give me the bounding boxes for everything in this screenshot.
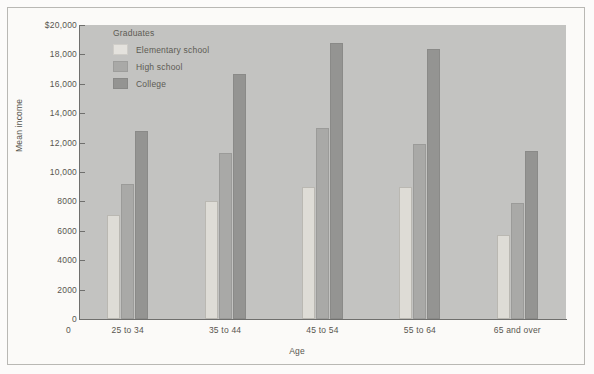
chart-figure: 0200040006000800010,00012,00014,00016,00… [0, 0, 594, 374]
y-axis-tick-label: 8000 [5, 196, 77, 206]
x-axis-title: Age [0, 346, 594, 356]
legend-entry: College [113, 75, 263, 92]
y-axis-tick [79, 25, 85, 26]
bar [330, 43, 343, 319]
y-axis-tick [79, 201, 85, 202]
y-axis-tick-label: 2000 [5, 285, 77, 295]
bar [399, 187, 412, 319]
x-axis-line [79, 319, 567, 320]
y-axis-tick [79, 290, 85, 291]
legend-entries: Elementary schoolHigh schoolCollege [113, 41, 263, 92]
bar [511, 203, 524, 319]
legend-title: Graduates [113, 28, 263, 38]
legend-swatch-icon [113, 78, 128, 89]
bar [316, 128, 329, 319]
bar [233, 74, 246, 319]
bar [219, 153, 232, 319]
x-origin-label: 0 [66, 325, 71, 335]
y-axis-tick [79, 172, 85, 173]
y-axis-tick-label: 6000 [5, 226, 77, 236]
y-axis-tick [79, 54, 85, 55]
x-axis-tick-label: 45 to 54 [306, 325, 338, 335]
legend-entry: Elementary school [113, 41, 263, 58]
bar [427, 49, 440, 319]
y-axis-tick [79, 260, 85, 261]
legend-label: High school [136, 62, 183, 72]
y-axis-tick [79, 113, 85, 114]
bar [107, 215, 120, 319]
legend-swatch-icon [113, 61, 128, 72]
legend-swatch-icon [113, 44, 128, 55]
bar [525, 151, 538, 319]
x-axis-tick-label: 55 to 64 [404, 325, 436, 335]
y-axis-tick-label: 10,000 [5, 167, 77, 177]
y-axis-tick-label: 4000 [5, 255, 77, 265]
y-axis-tick [79, 143, 85, 144]
y-axis-title: Mean income [14, 99, 24, 152]
x-axis-tick-label: 35 to 44 [209, 325, 241, 335]
y-axis-tick-label: $20,000 [5, 20, 77, 30]
legend-label: Elementary school [136, 45, 209, 55]
legend-entry: High school [113, 58, 263, 75]
y-axis-tick-label: 0 [5, 314, 77, 324]
bar [302, 187, 315, 319]
bar [413, 144, 426, 319]
bar [497, 235, 510, 319]
y-axis-tick-label: 18,000 [5, 49, 77, 59]
bar [121, 184, 134, 319]
bar [205, 201, 218, 319]
legend-label: College [136, 79, 166, 89]
bar [135, 131, 148, 319]
x-axis-tick-label: 25 to 34 [112, 325, 144, 335]
x-axis-tick-label: 65 and over [494, 325, 541, 335]
y-axis-tick [79, 231, 85, 232]
y-axis-tick-label: 16,000 [5, 79, 77, 89]
y-axis-tick [79, 84, 85, 85]
y-axis-ticks: 0200040006000800010,00012,00014,00016,00… [0, 0, 77, 374]
chart-legend: Graduates Elementary schoolHigh schoolCo… [113, 28, 263, 92]
